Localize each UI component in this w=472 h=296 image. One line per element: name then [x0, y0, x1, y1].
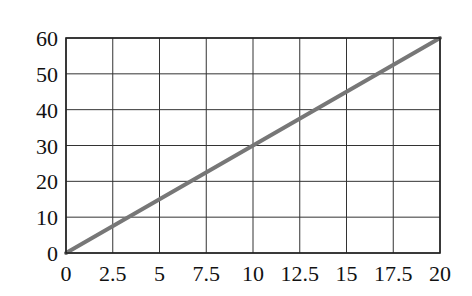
y-tick-label: 60: [36, 26, 58, 51]
x-tick-label: 12.5: [281, 261, 320, 286]
y-tick-label: 10: [36, 205, 58, 230]
y-axis-ticks: 0102030405060: [36, 26, 58, 266]
y-tick-label: 50: [36, 62, 58, 87]
x-tick-label: 5: [154, 261, 165, 286]
x-tick-label: 17.5: [374, 261, 413, 286]
y-tick-label: 40: [36, 98, 58, 123]
x-tick-label: 7.5: [193, 261, 221, 286]
y-tick-label: 0: [47, 241, 58, 266]
x-tick-label: 0: [61, 261, 72, 286]
x-tick-label: 20: [429, 261, 451, 286]
y-tick-label: 20: [36, 169, 58, 194]
line-chart: 02.557.51012.51517.520 0102030405060: [0, 0, 472, 296]
x-axis-ticks: 02.557.51012.51517.520: [61, 261, 452, 286]
x-tick-label: 15: [336, 261, 358, 286]
x-tick-label: 10: [242, 261, 264, 286]
y-tick-label: 30: [36, 134, 58, 159]
x-tick-label: 2.5: [99, 261, 127, 286]
